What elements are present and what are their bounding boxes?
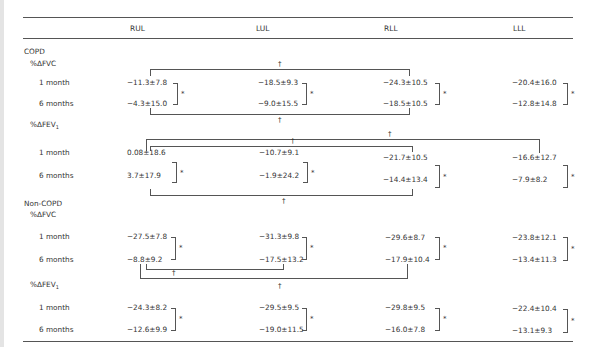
- row-label: 6 months: [39, 255, 73, 264]
- bottom-rule: [23, 341, 573, 342]
- header-rule: [23, 38, 573, 39]
- between-bracket-line: [409, 69, 410, 76]
- cell-value: −29.8±9.5: [385, 303, 425, 312]
- between-bracket-line: [412, 146, 413, 152]
- between-bracket-line: [146, 139, 540, 140]
- between-bracket-line: [150, 69, 410, 70]
- between-bracket-line: [140, 278, 408, 279]
- between-bracket-line: [409, 108, 410, 115]
- cell-value: −7.9±8.2: [512, 175, 547, 184]
- between-bracket-line: [539, 139, 540, 153]
- column-header-lll: LLL: [513, 24, 526, 33]
- between-bracket-line: [150, 114, 410, 115]
- cell-value: −24.3±10.5: [383, 78, 428, 87]
- asterisk-marker: *: [443, 245, 447, 252]
- significance-bracket: [563, 237, 568, 261]
- cell-value: −11.3±7.8: [127, 78, 167, 87]
- significance-bracket: [563, 165, 568, 188]
- between-bracket-line: [150, 146, 412, 147]
- measure-label-fev1: %ΔFEV1: [30, 280, 59, 290]
- asterisk-marker: *: [310, 91, 314, 98]
- cell-value: −27.5±7.8: [127, 232, 167, 241]
- measure-label-fev1: %ΔFEV1: [30, 120, 59, 130]
- cell-value: −17.9±10.4: [385, 255, 430, 264]
- dagger-marker: †: [172, 270, 176, 277]
- asterisk-marker: *: [571, 91, 575, 98]
- dagger-marker: †: [388, 131, 392, 138]
- cell-value: −13.1±9.3: [512, 326, 552, 335]
- asterisk-marker: *: [571, 174, 575, 181]
- between-bracket-line: [146, 264, 147, 270]
- significance-bracket: [173, 83, 178, 105]
- cell-value: −20.4±16.0: [512, 78, 557, 87]
- cell-value: −18.5±9.3: [258, 78, 298, 87]
- page-edge: [0, 0, 4, 347]
- cell-value: −16.6±12.7: [512, 153, 557, 162]
- between-bracket-line: [150, 189, 151, 196]
- cell-value: −9.0±15.5: [258, 99, 298, 108]
- dagger-marker: †: [291, 138, 295, 145]
- row-label: 6 months: [39, 171, 73, 180]
- cell-value: −14.4±13.4: [383, 175, 428, 184]
- dagger-marker: †: [282, 198, 286, 205]
- significance-bracket: [435, 83, 440, 105]
- significance-bracket: [435, 165, 440, 188]
- measure-label-fvc: %ΔFVC: [30, 210, 56, 219]
- asterisk-marker: *: [311, 170, 315, 177]
- cell-value: −12.8±14.8: [512, 99, 557, 108]
- cell-value: −23.8±12.1: [512, 233, 557, 242]
- cell-value: −18.5±10.5: [383, 99, 428, 108]
- row-label: 1 month: [39, 148, 70, 157]
- between-bracket-line: [283, 264, 284, 270]
- significance-bracket: [302, 308, 307, 331]
- significance-bracket: [302, 237, 307, 260]
- column-header-rul: RUL: [130, 24, 145, 33]
- asterisk-marker: *: [443, 316, 447, 323]
- cell-value: −16.0±7.8: [385, 325, 425, 334]
- between-bracket-line: [412, 189, 413, 196]
- top-rule: [23, 17, 573, 18]
- row-label: 6 months: [39, 325, 73, 334]
- asterisk-marker: *: [310, 245, 314, 252]
- between-bracket-line: [150, 69, 151, 76]
- significance-bracket: [171, 237, 176, 260]
- asterisk-marker: *: [571, 318, 575, 325]
- column-header-rll: RLL: [384, 24, 398, 33]
- cell-value: −8.8±9.2: [127, 255, 162, 264]
- cell-value: −19.0±11.5: [259, 325, 304, 334]
- between-bracket-line: [140, 264, 141, 279]
- significance-bracket: [563, 83, 568, 105]
- cell-value: −29.6±8.7: [385, 233, 425, 242]
- asterisk-marker: *: [180, 170, 184, 177]
- row-label: 1 month: [39, 78, 70, 87]
- dagger-marker: †: [278, 61, 282, 68]
- cell-value: −24.3±8.2: [127, 303, 167, 312]
- cell-value: 0.08±18.6: [127, 148, 166, 157]
- significance-bracket: [171, 308, 176, 331]
- column-header-lul: LUL: [256, 24, 269, 33]
- cell-value: −21.7±10.5: [383, 153, 428, 162]
- group-label-non-copd: Non-COPD: [24, 199, 62, 208]
- group-label-copd: COPD: [24, 47, 45, 56]
- cell-value: −4.3±15.0: [127, 99, 167, 108]
- row-label: 1 month: [39, 232, 70, 241]
- between-bracket-line: [146, 269, 284, 270]
- asterisk-marker: *: [443, 91, 447, 98]
- cell-value: −1.9±24.2: [259, 171, 299, 180]
- cell-value: −10.7±9.1: [259, 148, 299, 157]
- measure-label-fvc: %ΔFVC: [30, 59, 56, 68]
- cell-value: −13.4±11.3: [512, 255, 557, 264]
- asterisk-marker: *: [571, 246, 575, 253]
- between-bracket-line: [150, 195, 412, 196]
- significance-bracket: [435, 237, 440, 260]
- cell-value: −17.5±13.2: [259, 255, 304, 264]
- significance-bracket: [172, 162, 177, 183]
- asterisk-marker: *: [179, 245, 183, 252]
- asterisk-marker: *: [181, 91, 185, 98]
- cell-value: 3.7±17.9: [127, 171, 161, 180]
- significance-bracket: [302, 83, 307, 105]
- cell-value: −12.6±9.9: [127, 325, 167, 334]
- row-label: 6 months: [39, 99, 73, 108]
- asterisk-marker: *: [443, 174, 447, 181]
- significance-bracket: [563, 309, 568, 333]
